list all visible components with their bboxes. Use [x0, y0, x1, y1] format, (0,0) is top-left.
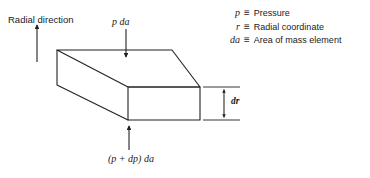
mass-element-box: [57, 50, 200, 120]
bottom-force-label: (p + dp) da: [108, 153, 154, 166]
legend-item: da ≡ Area of mass element: [218, 34, 341, 45]
legend-symbol: da: [218, 34, 244, 45]
box-left-face: [57, 50, 128, 120]
legend-symbol: r: [218, 21, 244, 32]
legend-definition: Area of mass element: [254, 35, 342, 45]
legend-definition: Radial coordinate: [254, 22, 324, 32]
pressure-element-diagram: Radial direction p da (p + dp) da dr p ≡…: [0, 0, 370, 178]
radial-direction-label: Radial direction: [8, 14, 73, 26]
box-front-face: [128, 87, 200, 120]
legend-item: r ≡ Radial coordinate: [218, 21, 341, 32]
thickness-label: dr: [231, 96, 239, 108]
legend-symbol: p: [218, 7, 244, 18]
box-top-face: [57, 50, 200, 87]
identity-icon: ≡: [244, 7, 254, 18]
identity-icon: ≡: [244, 34, 254, 45]
nomenclature-legend: p ≡ Pressure r ≡ Radial coordinate da ≡ …: [218, 7, 341, 48]
legend-item: p ≡ Pressure: [218, 7, 341, 18]
legend-definition: Pressure: [254, 8, 290, 18]
top-force-label: p da: [112, 16, 130, 29]
identity-icon: ≡: [244, 21, 254, 32]
